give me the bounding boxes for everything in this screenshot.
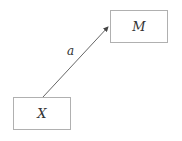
- node-x: X: [13, 97, 71, 130]
- node-m-label: M: [132, 19, 145, 34]
- node-x-label: X: [37, 106, 46, 121]
- node-m: M: [110, 10, 168, 43]
- edge-label-a: a: [67, 44, 74, 58]
